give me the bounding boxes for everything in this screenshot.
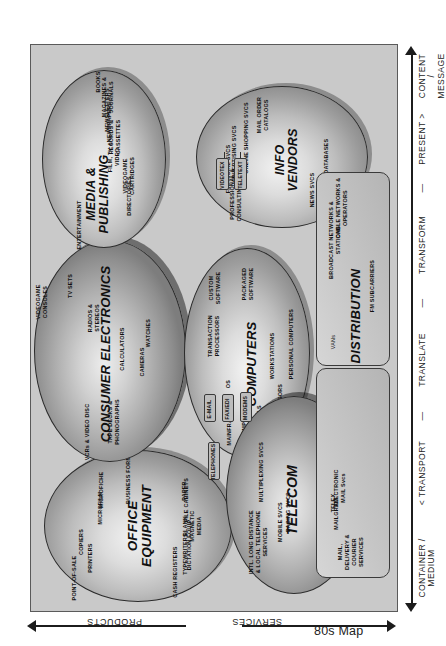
axis-label-transform: TRANSFORM (418, 216, 427, 274)
node-consumer-electronics-item-3: WATCHES (145, 319, 152, 347)
diagram-root: 80s Map PRODUCTS SERVICES CONTAINER / ME… (0, 0, 446, 646)
node-computers-item-6: OS (225, 380, 232, 388)
node-media-publishing-item-7: MAGAZINES & JOURNALS (101, 77, 115, 118)
axis-products-arrow (27, 620, 36, 632)
node-computers-item-5: PERSONAL COMPUTERS (288, 309, 295, 379)
axis-label-content-message: CONTENT / MESSAGE (418, 53, 446, 98)
node-info-vendors-title: INFO VENDORS (274, 128, 300, 191)
node-computers-item-8: CUSTOM SOFTWARE (208, 272, 222, 305)
node-consumer-electronics-item-4: CALCULATORS (119, 327, 126, 370)
axis-horizontal: CONTAINER / MEDIUM < TRANSPORT — TRANSLA… (402, 46, 436, 612)
connector-label-teletext: TELETEXT (237, 161, 243, 189)
node-info-vendors-item-5: NEWS SVCS (309, 173, 316, 208)
node-distribution-item-1: FM SUBCARRIERS (369, 260, 376, 312)
diagram-stage: 80s Map PRODUCTS SERVICES CONTAINER / ME… (8, 8, 438, 638)
connector-label-email: E-MAIL (206, 400, 212, 419)
axis-vertical: PRODUCTS SERVICES (30, 612, 396, 640)
axis-label-dash-3: — (418, 184, 427, 193)
connector-label-videotex: VIDEOTEX (219, 161, 225, 188)
node-office-equipment-item-0: POINT-OF-SALE (71, 556, 78, 601)
axis-label-dash-1: — (418, 412, 427, 421)
connector-label-fax-edi: FAX/EDI (224, 398, 230, 419)
node-distribution-item-3: CABLE NETWORKS & OPERATORS (335, 178, 349, 239)
axis-horizontal-line (411, 54, 413, 606)
node-computers-item-9: PACKAGED SOFTWARE (241, 268, 255, 301)
node-media-publishing-item-0: ENTERTAINMENT (76, 201, 83, 250)
node-telecom-item-0: INTL. LONG DISTANCE & LOCAL TELEPHONE SE… (248, 510, 268, 574)
node-consumer-electronics-item-7: VIDEOGAME CONSOLES (35, 284, 49, 319)
node-office-equipment-item-8: COPIERS (78, 529, 85, 555)
node-office-equipment-item-1: CASH REGISTERS (172, 546, 179, 597)
node-distribution-item-0: VANs (330, 335, 337, 349)
node-media-publishing-item-2: VIDEOGAME CARTRIDGES (122, 157, 136, 195)
node-mail-item-2: ELECTRONIC MAIL Svcs (333, 469, 347, 507)
node-office-equipment-item-11: BUSINESS FORMS (125, 452, 132, 504)
axis-label-present: PRESENT > (418, 113, 427, 164)
node-telecom-item-2: PAGING SVCS (285, 492, 292, 532)
axis-left-arrow (405, 603, 417, 612)
node-mail-title: MAIL, DELIVERY & COURIER SERVICES (337, 534, 365, 570)
node-consumer-electronics-item-2: CAMERAS (139, 347, 146, 376)
axis-label-dash-2: — (418, 299, 427, 308)
connector-label-modems: MODEMS (242, 396, 248, 420)
node-consumer-electronics-item-1: TAPE DECKS & PHONOGRAPHS (107, 399, 121, 445)
node-office-equipment-item-6: PAPER (181, 481, 188, 500)
node-info-vendors-item-4: MAIL ORDER CATALOGS (256, 97, 270, 134)
axis-services-arrow (387, 620, 396, 632)
node-computers-item-7: TRANSACTION PROCESSORS (207, 315, 221, 357)
node-consumer-electronics-item-5: RADIOS & STEREOS (87, 304, 101, 332)
node-consumer-electronics-item-6: TV SETS (67, 274, 74, 298)
axis-label-translate: TRANSLATE (418, 333, 427, 387)
node-telecom-item-1: MOBILE SVCS (277, 502, 284, 542)
node-distribution-title: DISTRIBUTION (349, 269, 362, 364)
axis-products-label: PRODUCTS (87, 617, 142, 627)
node-office-equipment-item-10: MICROFICHE (98, 472, 105, 509)
node-office-equipment-item-7: PRINTERS (87, 543, 94, 572)
axis-label-transport: < TRANSPORT (418, 441, 427, 506)
node-media-publishing-item-8: BOOKS (95, 71, 102, 92)
axis-services-label: SERVICES (232, 617, 282, 627)
connector-label-telephones: TELEPHONES (210, 444, 216, 481)
axis-right-arrow (405, 46, 417, 55)
node-computers-item-4: WORKSTATIONS (269, 333, 276, 380)
node-telecom-item-3: MULTIPLEXING SVCS (258, 442, 265, 502)
node-consumer-electronics-item-0: VCRs & VIDEO DISC (84, 404, 91, 461)
axis-label-container-medium: CONTAINER / MEDIUM (418, 538, 437, 597)
